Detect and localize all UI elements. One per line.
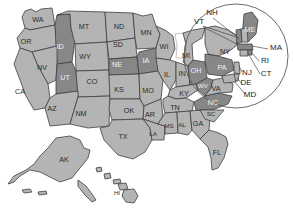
state-label-NY: NY	[220, 47, 230, 56]
us-map-container: WAORIDMTNDMNWYSDNEIAWIMINVUTCOKSMOILINOH…	[0, 0, 293, 212]
state-label-VA: VA	[211, 84, 220, 93]
state-MA-shape[interactable]	[237, 44, 253, 50]
state-label-GA: GA	[193, 119, 204, 128]
state-label-FL: FL	[213, 148, 221, 157]
state-label-ID: ID	[56, 42, 63, 51]
state-label-TN: TN	[170, 103, 180, 112]
state-label-KY: KY	[179, 89, 189, 98]
state-label-MI: MI	[182, 51, 190, 60]
callout-label-DE: DE	[240, 78, 251, 87]
callout-label-CT: CT	[261, 69, 272, 78]
state-label-PA: PA	[217, 63, 226, 72]
state-label-AR: AR	[145, 110, 155, 119]
state-label-IA: IA	[143, 56, 150, 65]
state-label-ND: ND	[114, 22, 124, 31]
hawaii-kauai	[96, 167, 102, 172]
state-label-CA: CA	[15, 87, 25, 96]
state-label-TX: TX	[118, 132, 127, 141]
state-label-AL: AL	[178, 121, 186, 128]
state-label-MO: MO	[142, 86, 154, 95]
callout-label-MA: MA	[270, 43, 283, 52]
state-label-LA: LA	[149, 130, 157, 137]
state-label-SC: SC	[207, 110, 216, 117]
state-label-OH: OH	[191, 66, 202, 75]
state-label-CO: CO	[87, 77, 98, 86]
state-label-WV: WV	[198, 82, 209, 89]
hawaii-big-island	[122, 189, 138, 203]
state-label-NM: NM	[75, 109, 86, 118]
alaska-panhandle	[78, 180, 96, 202]
hawaii-oahu	[104, 173, 111, 179]
state-label-NE: NE	[112, 60, 122, 69]
state-label-WA: WA	[32, 15, 44, 24]
hawaii-molokai	[113, 179, 121, 184]
state-AK[interactable]	[8, 136, 90, 184]
state-label-IL: IL	[164, 70, 170, 79]
state-label-MS: MS	[164, 122, 173, 129]
state-label-ME: ME	[245, 25, 256, 34]
state-label-IN: IN	[178, 69, 185, 78]
state-label-MT: MT	[79, 22, 90, 31]
callout-label-NH: NH	[206, 8, 218, 17]
callout-label-VT: VT	[194, 17, 204, 26]
state-label-WY: WY	[79, 52, 91, 61]
state-label-UT: UT	[60, 73, 70, 82]
state-NJ-shape[interactable]	[234, 62, 240, 74]
state-label-HI: HI	[114, 189, 120, 196]
state-label-KS: KS	[114, 85, 124, 94]
state-MD-shape[interactable]	[222, 74, 236, 83]
callout-label-RI: RI	[261, 56, 269, 65]
state-label-SD: SD	[113, 40, 123, 49]
alaska-aleutian-1	[22, 189, 32, 193]
state-label-AZ: AZ	[47, 104, 57, 113]
state-label-MN: MN	[140, 28, 151, 37]
state-CT-shape[interactable]	[240, 50, 248, 56]
callout-label-NJ: NJ	[242, 68, 252, 77]
state-label-NC: NC	[208, 98, 218, 107]
state-label-NV: NV	[37, 63, 47, 72]
state-label-OK: OK	[124, 106, 135, 115]
alaska-aleutian-2	[38, 191, 47, 195]
state-label-OR: OR	[21, 37, 32, 46]
us-map-svg[interactable]: WAORIDMTNDMNWYSDNEIAWIMINVUTCOKSMOILINOH…	[0, 0, 293, 212]
state-label-AK: AK	[59, 155, 69, 164]
state-label-WI: WI	[160, 42, 169, 51]
callout-label-MD: MD	[244, 90, 257, 99]
